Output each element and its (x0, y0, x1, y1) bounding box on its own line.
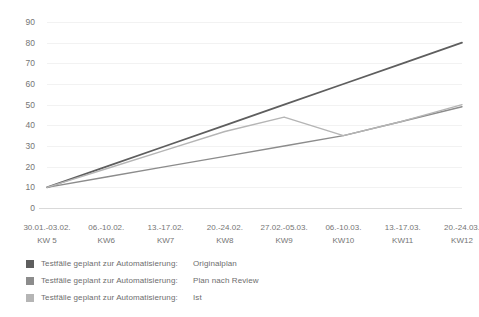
plot-area: 0102030405060708090 30.01.-03.02.KW 506.… (0, 0, 479, 250)
y-tick-label: 80 (26, 38, 36, 48)
legend-swatch-icon (26, 277, 34, 285)
legend-series-variant: Originalplan (193, 259, 237, 268)
y-tick-label: 50 (26, 100, 36, 110)
legend-label: Testfälle geplant zur Automatisierung:Pl… (41, 276, 259, 285)
legend-series-name: Testfälle geplant zur Automatisierung: (41, 276, 193, 285)
legend-label: Testfälle geplant zur Automatisierung:Is… (41, 293, 202, 302)
x-tick-label-date: 13.-17.02. (148, 223, 184, 232)
y-tick-label: 60 (26, 79, 36, 89)
series-line-2 (47, 107, 462, 188)
legend-item[interactable]: Testfälle geplant zur Automatisierung:Or… (26, 256, 456, 271)
chart-legend: Testfälle geplant zur Automatisierung:Or… (26, 256, 456, 307)
line-chart: 0102030405060708090 30.01.-03.02.KW 506.… (0, 0, 479, 317)
chart-svg: 0102030405060708090 30.01.-03.02.KW 506.… (0, 0, 479, 250)
legend-item[interactable]: Testfälle geplant zur Automatisierung:Is… (26, 290, 456, 305)
legend-series-name: Testfälle geplant zur Automatisierung: (41, 293, 193, 302)
y-tick-label: 40 (26, 120, 36, 130)
series-line-1 (47, 43, 462, 188)
x-tick-label-week: KW6 (98, 236, 116, 245)
x-tick-label-date: 06.-10.02. (88, 223, 124, 232)
x-tick-label-date: 30.01.-03.02. (23, 223, 70, 232)
x-tick-label-date: 20.-24.02. (207, 223, 243, 232)
y-tick-label: 20 (26, 162, 36, 172)
legend-series-variant: Ist (193, 293, 202, 302)
x-tick-label-date: 13.-17.03. (385, 223, 421, 232)
legend-series-variant: Plan nach Review (193, 276, 259, 285)
legend-swatch-icon (26, 260, 34, 268)
legend-label: Testfälle geplant zur Automatisierung:Or… (41, 259, 237, 268)
y-tick-label: 70 (26, 58, 36, 68)
gridlines (47, 23, 462, 188)
legend-swatch-icon (26, 294, 34, 302)
x-axis-tick-labels: 30.01.-03.02.KW 506.-10.02.KW613.-17.02.… (23, 223, 479, 245)
y-tick-label: 10 (26, 182, 36, 192)
x-tick-label-date: 27.02.-05.03. (261, 223, 308, 232)
x-tick-label-date: 20.-24.03. (444, 223, 479, 232)
y-axis-tick-labels: 0102030405060708090 (26, 17, 36, 213)
legend-series-name: Testfälle geplant zur Automatisierung: (41, 259, 193, 268)
x-tick-label-week: KW11 (392, 236, 414, 245)
x-tick-label-week: KW8 (216, 236, 234, 245)
y-tick-label: 30 (26, 141, 36, 151)
x-tick-label-date: 06.-10.03. (325, 223, 361, 232)
x-tick-label-week: KW7 (157, 236, 175, 245)
x-tick-label-week: KW9 (275, 236, 293, 245)
x-tick-label-week: KW 5 (37, 236, 57, 245)
legend-item[interactable]: Testfälle geplant zur Automatisierung:Pl… (26, 273, 456, 288)
y-tick-label: 90 (26, 17, 36, 27)
y-tick-label: 0 (30, 203, 35, 213)
x-tick-label-week: KW12 (451, 236, 473, 245)
x-tick-label-week: KW10 (333, 236, 355, 245)
series-lines (47, 43, 462, 188)
